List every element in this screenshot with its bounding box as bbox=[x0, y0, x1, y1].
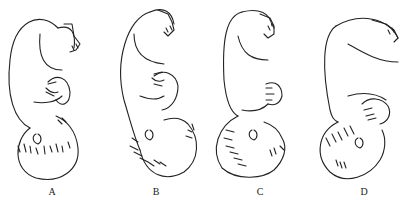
figure-b: B bbox=[104, 0, 208, 204]
fetus-c-drawing bbox=[208, 0, 312, 185]
label-a: A bbox=[0, 186, 104, 197]
label-d: D bbox=[312, 186, 416, 197]
fetus-b-drawing bbox=[104, 0, 208, 185]
figure-a: A bbox=[0, 0, 104, 204]
fetus-a-drawing bbox=[0, 0, 104, 185]
fetus-d-drawing bbox=[312, 0, 416, 185]
figure-d: D bbox=[312, 0, 416, 204]
label-b: B bbox=[104, 186, 208, 197]
label-c: C bbox=[208, 186, 312, 197]
figure-c: C bbox=[208, 0, 312, 204]
